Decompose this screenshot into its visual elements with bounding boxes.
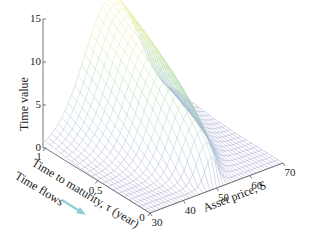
time-flows-arrow-icon [62,200,86,215]
s-axis-label: Asset price, S [201,178,268,215]
z-tick-label: 10 [30,55,42,67]
z-tick-label: 5 [36,98,42,110]
z-axis-label: Time value [17,77,31,131]
s-tick-label: 70 [285,166,297,178]
axes: 05101500.513040506070 [30,12,296,228]
z-tick-label: 15 [30,12,42,24]
surface-plot: 05101500.513040506070 Time value Time to… [0,0,315,236]
axis-labels: Time value Time to maturity, τ (year) As… [12,77,268,231]
s-tick-label: 40 [185,204,197,216]
s-tick-label: 30 [152,216,164,228]
